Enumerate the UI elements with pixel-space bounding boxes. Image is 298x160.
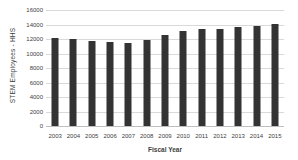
y-tick-label: 10000 bbox=[3, 51, 43, 57]
y-tick-label: 4000 bbox=[3, 94, 43, 100]
bar-2008 bbox=[143, 40, 150, 126]
bar-2011 bbox=[198, 29, 205, 126]
y-tick-label: 8000 bbox=[3, 65, 43, 71]
bar-chart: STEM Employees - HHS 0200040006000800010… bbox=[0, 0, 298, 160]
bar-2015 bbox=[271, 24, 278, 126]
y-tick-label: 0 bbox=[3, 123, 43, 129]
y-tick-label: 16000 bbox=[3, 7, 43, 13]
bar-2006 bbox=[107, 42, 114, 126]
bar-2004 bbox=[70, 39, 77, 126]
x-axis-title: Fiscal Year bbox=[46, 146, 284, 153]
plot-area bbox=[46, 10, 284, 127]
y-tick-label: 6000 bbox=[3, 80, 43, 86]
bar-2005 bbox=[88, 41, 95, 126]
gridline bbox=[46, 25, 284, 26]
y-tick-label: 2000 bbox=[3, 109, 43, 115]
x-tick-label: 2015 bbox=[263, 133, 287, 139]
bar-2012 bbox=[216, 29, 223, 127]
bar-2013 bbox=[235, 27, 242, 126]
bar-2010 bbox=[180, 31, 187, 126]
bar-2007 bbox=[125, 43, 132, 126]
bar-2014 bbox=[253, 26, 260, 126]
y-tick-label: 12000 bbox=[3, 36, 43, 42]
y-tick-label: 14000 bbox=[3, 22, 43, 28]
bar-2009 bbox=[162, 35, 169, 126]
gridline bbox=[46, 10, 284, 11]
bar-2003 bbox=[52, 38, 59, 126]
